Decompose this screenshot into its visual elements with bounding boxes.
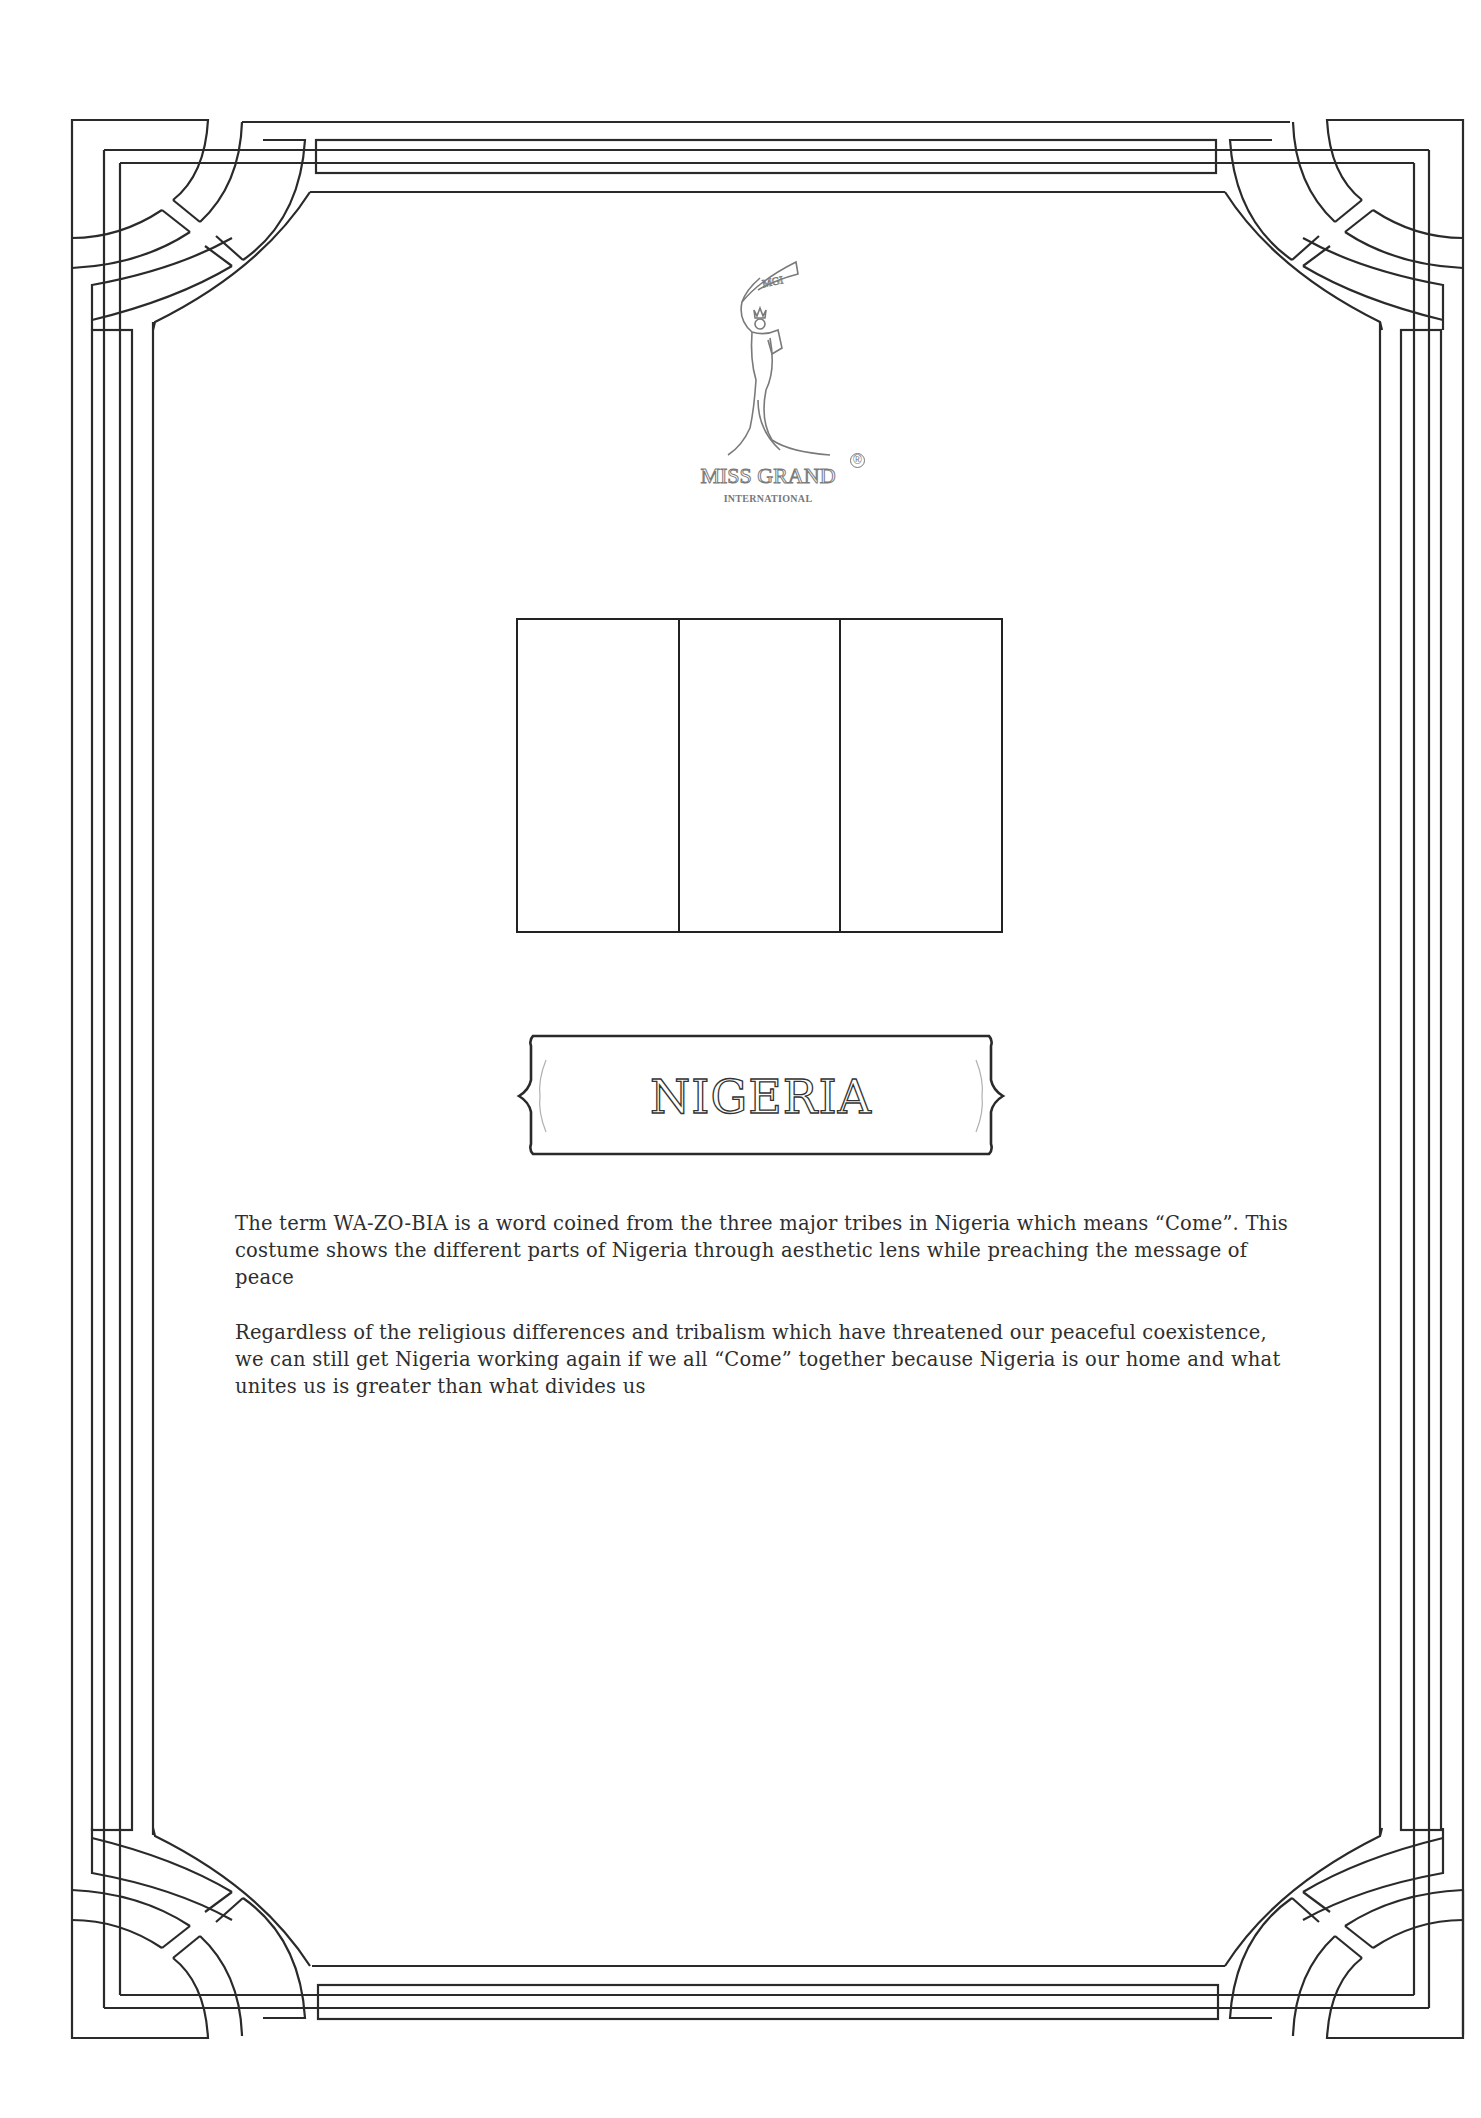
flag-stripe-right bbox=[839, 620, 1001, 931]
flag-stripe-left bbox=[518, 620, 678, 931]
corner-ornament-bottom-right bbox=[1225, 1828, 1463, 2038]
logo-title: MISS GRAND bbox=[680, 463, 856, 489]
miss-grand-international-logo: MGI MISS GRAND ® INTERNATIONAL bbox=[680, 250, 880, 520]
description-paragraph: Regardless of the religious differences … bbox=[235, 1319, 1295, 1400]
country-name-banner: NIGERIA bbox=[516, 1030, 1006, 1160]
corner-ornament-bottom-left bbox=[72, 1828, 310, 2038]
corner-ornament-top-left bbox=[72, 120, 310, 330]
corner-ornament-top-right bbox=[1225, 120, 1463, 330]
description-paragraph: The term WA-ZO-BIA is a word coined from… bbox=[235, 1210, 1295, 1291]
flag-stripe-center bbox=[678, 620, 840, 931]
country-title: NIGERIA bbox=[516, 1030, 1006, 1160]
nigeria-flag-outline bbox=[516, 618, 1003, 933]
costume-description: The term WA-ZO-BIA is a word coined from… bbox=[235, 1210, 1295, 1428]
registered-mark: ® bbox=[850, 453, 865, 468]
logo-subtitle: INTERNATIONAL bbox=[680, 493, 856, 504]
crowned-woman-silhouette-icon: MGI bbox=[680, 250, 880, 460]
mgi-banner-label: MGI bbox=[761, 273, 785, 289]
